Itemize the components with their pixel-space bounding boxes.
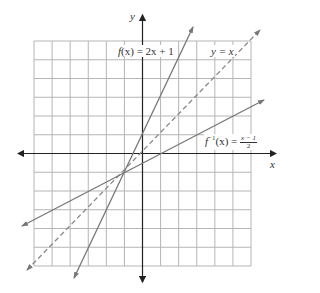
y-axis-label: y xyxy=(130,10,135,22)
label-finv-den: 2 xyxy=(240,143,257,150)
x-axis-label: x xyxy=(270,158,275,170)
label-f-expr: (x) = 2x + 1 xyxy=(121,45,174,57)
label-finv-arg: (x) = xyxy=(216,135,241,147)
label-finv-sup: −1 xyxy=(208,134,215,142)
line-y-equals-x xyxy=(27,30,260,270)
label-f-inverse: f−1(x) = x − 12 xyxy=(204,134,258,150)
label-finv-fraction: x − 12 xyxy=(240,135,257,150)
label-f: f(x) = 2x + 1 xyxy=(117,45,175,57)
line-f xyxy=(74,27,193,278)
label-y-equals-x: y = x xyxy=(210,45,235,57)
